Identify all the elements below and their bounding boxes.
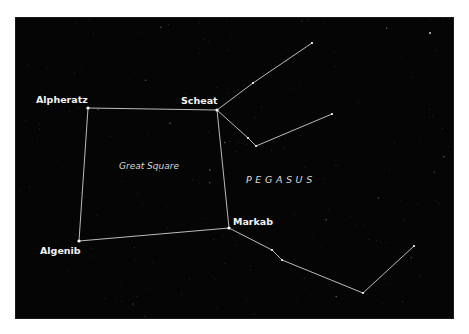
background-star [246,300,247,301]
background-star [392,188,393,189]
background-star [89,20,90,21]
background-star [227,50,228,51]
background-star [291,129,292,130]
background-star [232,34,233,35]
star-markab [227,226,230,229]
background-star [169,281,170,282]
background-star [311,296,312,297]
background-star [185,93,186,94]
background-star [261,107,262,108]
background-star [119,92,120,93]
background-star [286,48,287,49]
background-star [91,248,92,249]
background-star [208,41,209,42]
background-star [309,66,310,67]
background-star [292,62,293,63]
background-star [98,274,99,275]
background-star [168,24,169,25]
background-star [329,209,330,210]
background-star [116,300,117,301]
constellation-line [88,108,217,110]
background-star [404,219,405,220]
background-star [268,76,269,77]
background-star [440,43,441,44]
background-star [371,202,372,203]
background-star [303,279,304,280]
background-star [76,85,77,86]
background-star [22,92,23,93]
background-star [209,169,211,171]
star-point [255,145,257,147]
background-star [430,109,431,110]
background-star [91,256,92,257]
background-star [356,225,357,226]
background-star [386,28,388,30]
background-star [115,187,116,188]
background-star [438,203,439,204]
background-star [334,51,335,52]
background-star [132,303,134,305]
background-star [204,39,205,40]
background-star [412,243,413,244]
background-star [394,142,395,143]
background-star [321,247,322,248]
background-star [148,134,149,135]
star-algenib [77,239,80,242]
background-star [150,289,151,290]
background-star [52,62,53,63]
background-star [63,167,64,168]
constellation-line [217,83,253,110]
background-star [234,58,235,59]
background-star [352,238,353,239]
background-star [222,178,223,179]
background-star [74,73,75,74]
constellation-diagram: AlpheratzScheatMarkabAlgenib Great Squar… [0,0,469,334]
background-star [361,59,362,60]
background-star [276,61,277,62]
background-star [400,200,401,201]
background-star [167,228,168,229]
background-star [93,34,94,35]
background-star [35,253,36,254]
background-star [104,176,105,177]
background-star [435,200,436,201]
background-star [213,239,214,240]
background-star [50,51,51,52]
background-star [144,55,145,56]
background-star [312,234,313,235]
background-star [380,241,381,242]
star-labels: AlpheratzScheatMarkabAlgenib [36,94,273,256]
background-star [209,182,211,184]
background-star [153,262,154,263]
star-point [413,245,415,247]
background-star [215,279,216,280]
background-star [104,298,105,299]
background-star [366,141,367,142]
background-star [400,57,401,58]
star-point [311,42,313,44]
background-star [189,279,190,280]
background-star [306,20,307,21]
background-star [37,142,38,143]
background-star [361,26,362,27]
background-star [78,107,79,108]
background-star [91,312,92,313]
background-star [323,23,324,24]
background-star [303,65,304,66]
background-star [301,21,303,23]
constellation-line [229,228,272,250]
background-star [199,22,200,23]
background-star [271,150,272,151]
star-point [247,137,249,139]
background-star [182,46,183,47]
background-star [69,271,70,272]
background-star [160,26,162,28]
star-label-markab: Markab [233,216,273,227]
background-star [135,72,136,73]
background-star [25,111,26,112]
background-star [25,120,26,121]
background-star [438,285,439,286]
background-star [434,172,436,174]
background-star [59,82,60,83]
star-point [271,249,273,251]
